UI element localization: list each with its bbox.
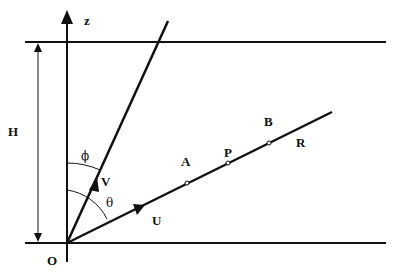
layer-diagram: z H V U ϕ θ A P B R O [0, 0, 413, 276]
point-p-marker [226, 161, 230, 165]
angle-theta-label: θ [106, 196, 113, 210]
ray-v [67, 21, 168, 243]
angle-phi-label: ϕ [81, 149, 89, 163]
z-axis-label: z [84, 13, 90, 28]
angle-theta-arc [67, 190, 107, 219]
ray-u-label: U [152, 213, 162, 228]
height-arrow-down-icon [34, 233, 42, 242]
point-a-label: A [181, 154, 191, 169]
ray-v-label: V [101, 174, 111, 189]
point-a-marker [185, 181, 189, 185]
origin-label: O [47, 253, 57, 268]
height-arrow-up-icon [34, 43, 42, 52]
point-b-marker [267, 141, 271, 145]
point-r-label: R [296, 135, 306, 150]
angle-phi-arc [67, 163, 100, 170]
point-p-label: P [224, 145, 232, 160]
height-label: H [8, 124, 18, 139]
point-b-label: B [264, 114, 273, 129]
z-axis-arrow-icon [61, 10, 73, 24]
